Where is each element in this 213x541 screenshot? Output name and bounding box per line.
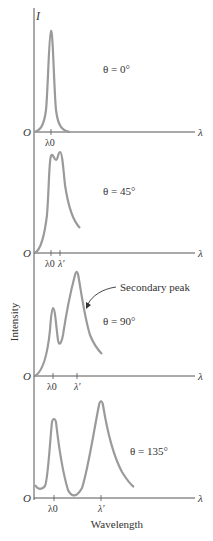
tick-lambda-prime: λ′ [73,381,81,392]
origin-label: O [23,492,31,504]
y-axis-title: Intensity [8,302,20,341]
intensity-curve [34,31,70,132]
angle-label: θ = 0° [103,63,130,75]
angle-label: θ = 135° [130,445,168,457]
intensity-curve [35,272,102,376]
x-axis-symbol: λ [197,247,203,259]
x-axis-symbol: λ [197,126,203,138]
tick-lambda0: λ0 [48,503,58,514]
tick-lambda-prime: λ′ [97,503,105,514]
annotation-arrow [88,287,116,304]
panel-theta-90: O λ λ0 λ′ Secondary peak θ = 90° [23,272,203,392]
x-axis-symbol: λ [197,370,203,382]
origin-label: O [23,247,31,259]
compton-scattering-figure: I O λ λ0 θ = 0° O λ λ0 λ′ θ = 45° O λ λ0… [0,0,213,541]
intensity-curve [35,152,80,253]
origin-label: O [23,370,31,382]
x-axis-symbol: λ [197,492,203,504]
tick-lambda-prime: λ′ [57,258,65,269]
panel-theta-0: O λ λ0 θ = 0° [23,31,203,148]
origin-label: O [23,126,31,138]
panel-theta-135: O λ λ0 λ′ θ = 135° [23,401,203,514]
angle-label: θ = 45° [103,185,135,197]
panel-theta-45: O λ λ0 λ′ θ = 45° [23,152,203,269]
tick-lambda0: λ0 [47,381,57,392]
tick-lambda0: λ0 [45,137,55,148]
intensity-curve [35,401,134,495]
tick-lambda0: λ0 [45,258,55,269]
x-axis-title: Wavelength [91,518,144,530]
secondary-peak-annotation: Secondary peak [120,281,190,293]
angle-label: θ = 90° [103,315,135,327]
y-axis-symbol: I [35,9,41,23]
